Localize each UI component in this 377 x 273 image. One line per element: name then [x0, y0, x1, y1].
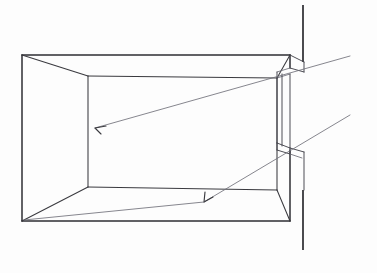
sketch-canvas: Interior Perspective Sketch — Room with … [0, 0, 377, 273]
paper-background [0, 0, 377, 273]
perspective-drawing [0, 0, 377, 273]
